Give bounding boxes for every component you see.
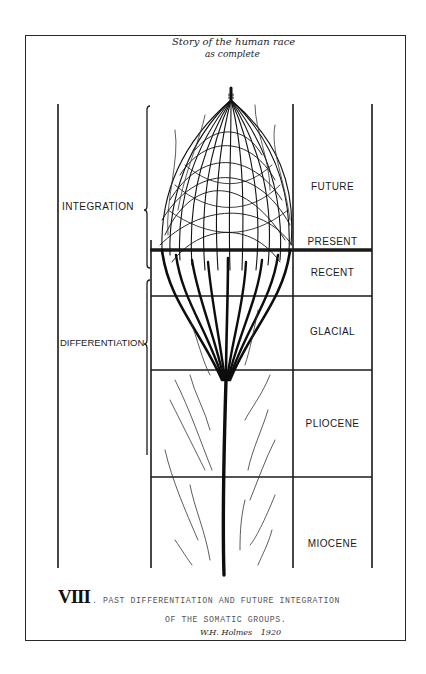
era-present: PRESENT <box>293 236 372 247</box>
differentiation-brace <box>144 280 150 455</box>
era-future: FUTURE <box>293 181 372 192</box>
era-miocene: MIOCENE <box>293 538 372 549</box>
handwritten-title-line1: Story of the human race <box>172 36 295 47</box>
era-glacial: GLACIAL <box>293 326 372 337</box>
differentiation-branches <box>162 250 290 575</box>
label-differentiation: DIFFERENTIATION <box>60 337 144 348</box>
figure-number: VIII <box>58 586 90 608</box>
signature-name: W.H. Holmes <box>200 628 252 637</box>
era-pliocene: PLIOCENE <box>293 418 372 429</box>
caption-line1: . PAST DIFFERENTIATION AND FUTURE INTEGR… <box>92 596 340 605</box>
signature-year: 1920 <box>261 628 281 637</box>
integration-brace <box>144 106 150 268</box>
era-recent: RECENT <box>293 267 372 278</box>
handwritten-title-line2: as complete <box>205 49 260 59</box>
integration-bulb <box>160 88 292 270</box>
caption-line2: OF THE SOMATIC GROUPS. <box>165 615 286 624</box>
signature: W.H. Holmes 1920 <box>200 628 281 637</box>
label-integration: INTEGRATION <box>62 201 134 212</box>
